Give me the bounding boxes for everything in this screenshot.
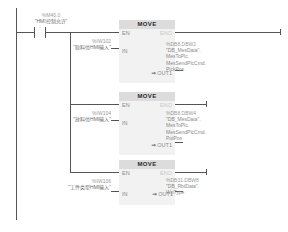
move-block-1-in-pin: IN <box>122 48 128 55</box>
move-block-2-output-operand[interactable]: %DB8.DBW4 "DB_MesData". MesToPlc. MesSen… <box>166 110 206 141</box>
move-block-3-title: MOVE <box>119 160 175 169</box>
wire-move-2-eno-out <box>175 104 207 105</box>
move-block-1-eno-pin: ENO <box>160 30 172 37</box>
move-block-1-output-path-3: PickPos <box>166 66 206 72</box>
move-block-3-output-path-1: WpType <box>166 189 199 195</box>
move-block-2-out-pin: ⇒ OUT1 <box>151 142 172 149</box>
move-block-2-output-path-2: MesSendPlcCmd. <box>166 129 206 135</box>
move-block-2-eno-pin: ENO <box>160 102 172 109</box>
move-block-1-output-operand[interactable]: %DB8.DBW2 "DB_MesData". MesToPlc. MesSen… <box>166 41 206 72</box>
move-block-3-output-operand[interactable]: %DB31.DBW8 "DB_RbtData". WpType <box>166 177 199 196</box>
move-block-2-en-pin: EN <box>122 102 130 109</box>
wire-move-1-eno-out <box>175 32 281 33</box>
move-block-3-input-symbol: "工件类型HMI输入" <box>55 184 111 190</box>
move-block-3-out-arrow: ⇒ <box>152 191 157 197</box>
wire-move-3-eno-out <box>175 172 207 173</box>
wire-rail-to-contact <box>16 32 34 33</box>
move-block-2-out-arrow: ⇒ <box>151 142 156 148</box>
move-block-1-output-path-2: MesSendPlcCmd. <box>166 60 206 66</box>
ladder-rung-canvas: %M40.0 "HMI控制允许" MOVE EN ENO IN ⇒ OUT1 %… <box>0 0 288 232</box>
wire-move-2-eno-terminator <box>206 101 207 107</box>
wire-move-3-eno-terminator <box>206 169 207 175</box>
wire-branch-to-move-1-en <box>70 32 119 33</box>
contact-operand[interactable]: %M40.0 "HMI控制允许" <box>28 12 74 24</box>
move-block-1-title: MOVE <box>119 20 175 29</box>
move-block-3-in-pin: IN <box>122 191 128 198</box>
power-rail-left <box>16 8 17 220</box>
wire-branch-to-move-3-en <box>70 172 119 173</box>
move-block-1-out-arrow: ⇒ <box>151 70 156 76</box>
move-block-1-input-operand[interactable]: %IW102 "取料位HMI输入" <box>55 38 111 50</box>
branch-trunk-vertical <box>70 32 71 172</box>
wire-branch-to-move-2-en <box>70 104 119 105</box>
move-block-2-output-path-3: PutPos <box>166 135 206 141</box>
move-block-3-en-pin: EN <box>122 170 130 177</box>
contact-bar-left <box>34 27 35 38</box>
move-block-3-input-operand[interactable]: %IW106 "工件类型HMI输入" <box>55 178 111 190</box>
move-block-2-in-pin: IN <box>122 120 128 127</box>
move-block-1-input-symbol: "取料位HMI输入" <box>55 44 111 50</box>
wire-move-1-eno-terminator <box>280 29 281 35</box>
move-block-2-input-operand[interactable]: %IW104 "放料位HMI输入" <box>55 110 111 122</box>
normally-open-contact[interactable] <box>34 27 46 38</box>
wire-move-2-in <box>111 120 119 121</box>
wire-move-1-in <box>111 48 119 49</box>
contact-symbol: "HMI控制允许" <box>28 18 74 24</box>
move-block-2-input-symbol: "放料位HMI输入" <box>55 116 111 122</box>
move-block-1-en-pin: EN <box>122 30 130 37</box>
wire-move-3-in <box>111 191 119 192</box>
move-block-2-title: MOVE <box>119 92 175 101</box>
wire-move-2-out <box>175 142 183 143</box>
move-block-3-eno-pin: ENO <box>160 170 172 177</box>
wire-contact-to-branch <box>46 32 70 33</box>
